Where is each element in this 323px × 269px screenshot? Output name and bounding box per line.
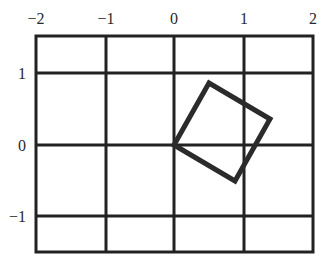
x-tick-label: −1 [97,10,114,27]
x-tick-label: 2 [309,10,317,27]
y-tick-label: 0 [18,137,26,154]
x-tick-label: 0 [170,10,178,27]
coordinate-grid-diagram: −2 −1 0 1 2 1 0 −1 [0,0,323,269]
x-tick-label: 1 [240,10,248,27]
y-tick-label: 1 [18,65,26,82]
rotated-square [174,83,270,181]
y-tick-label: −1 [9,208,26,225]
x-tick-label: −2 [27,10,44,27]
